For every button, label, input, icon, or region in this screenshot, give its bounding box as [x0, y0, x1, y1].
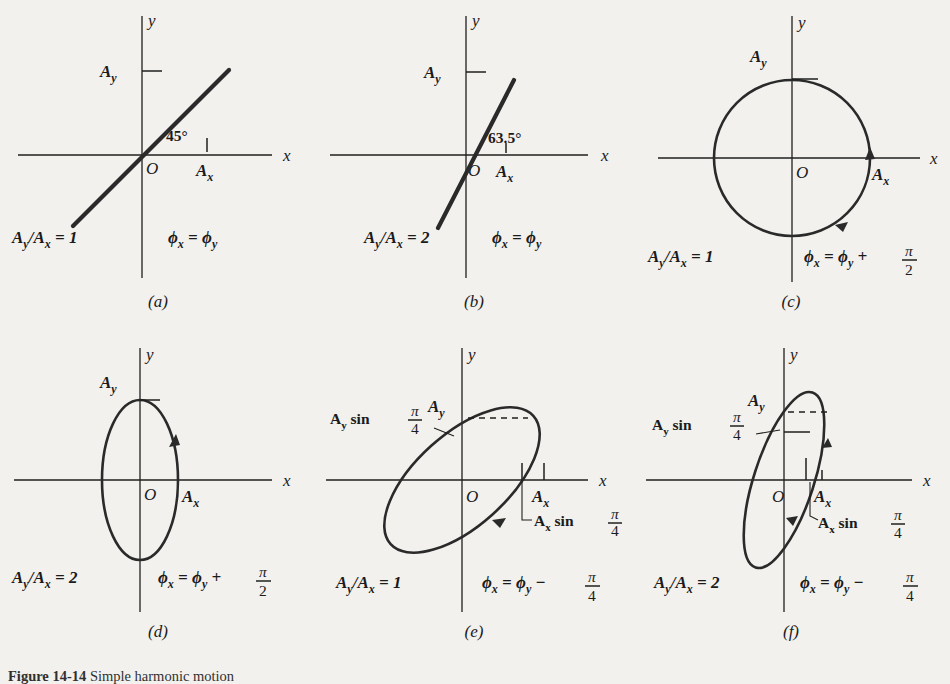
annotation-leader-y: [756, 430, 780, 434]
origin-label: O: [772, 487, 784, 506]
phase-label: ϕx = ϕy −: [482, 573, 546, 596]
amp-x-label: Ax: [813, 487, 831, 510]
panel-f: x y O Ay Ax Ay sin π 4: [632, 330, 950, 648]
fraction-numerator: π: [906, 568, 915, 585]
x-axis-label: x: [600, 146, 609, 165]
annotation-y-frac-num: π: [411, 402, 420, 419]
panel-letter-a: (a): [0, 292, 316, 312]
ratio-label: Ay/Ax = 2: [11, 568, 78, 591]
amp-y-label: Ay: [423, 63, 441, 86]
ratio-label: Ay/Ax = 1: [335, 573, 401, 596]
phase-fraction: π 4: [585, 568, 600, 604]
fraction-denominator: 4: [906, 587, 914, 604]
figure-caption: Figure 14-14 Simple harmonic motion: [8, 668, 942, 684]
ratio-label: Ay/Ax = 1: [647, 247, 713, 270]
panel-letter-f: (f): [632, 622, 950, 642]
panel-letter-e: (e): [316, 622, 632, 642]
amp-y-label: Ay: [99, 62, 117, 85]
annotation-x-text: Ax sin: [818, 514, 858, 535]
origin-label: O: [144, 485, 156, 504]
panel-a: x y O Ay Ax 45° Ay/Ax = 1 ϕx = ϕy (a): [0, 0, 316, 318]
ratio-label: Ay/Ax = 2: [363, 228, 430, 251]
panel-b: x y O Ay Ax 63.5° Ay/Ax = 2 ϕx = ϕy (b): [316, 0, 632, 318]
panel-letter-c: (c): [632, 292, 950, 312]
figure-caption-text: Simple harmonic motion: [90, 668, 234, 684]
y-axis-label: y: [146, 11, 156, 30]
direction-arrow-bottom: [835, 222, 848, 232]
panel-e-plot: x y O Ay Ax Ay sin π 4 Ax sin: [316, 330, 632, 648]
amp-x-label: Ax: [195, 161, 213, 184]
x-axis-label: x: [929, 149, 938, 168]
phase-fraction: π 2: [902, 242, 917, 278]
panel-a-plot: x y O Ay Ax 45° Ay/Ax = 1 ϕx = ϕy: [0, 0, 316, 318]
annotation-amp-y-sin: Ay sin π 4: [652, 408, 744, 443]
x-axis-label: x: [282, 146, 291, 165]
ratio-label: Ay/Ax = 2: [653, 573, 720, 596]
annotation-x-text: Ax sin: [534, 512, 574, 533]
annotation-x-frac-num: π: [894, 506, 903, 523]
direction-arrow-right: [865, 147, 875, 160]
phase-fraction: π 2: [256, 563, 271, 599]
panel-d-plot: x y O Ay Ax Ay/Ax = 2 ϕx = ϕy + π 2: [0, 330, 316, 648]
phase-label: ϕx = ϕy −: [800, 573, 864, 596]
x-axis-label: x: [282, 471, 291, 490]
phase-label: ϕx = ϕy +: [158, 568, 221, 591]
amp-y-label: Ay: [427, 397, 445, 420]
amp-x-label: Ax: [495, 162, 513, 185]
amp-x-label: Ax: [871, 165, 889, 188]
x-axis-label: x: [598, 471, 607, 490]
annotation-y-frac-den: 4: [733, 426, 741, 443]
fraction-numerator: π: [588, 568, 597, 585]
y-axis-label: y: [470, 11, 480, 30]
y-axis-label: y: [466, 345, 476, 364]
panel-d: x y O Ay Ax Ay/Ax = 2 ϕx = ϕy + π 2 (d): [0, 330, 316, 648]
annotation-y-text: Ay sin: [652, 416, 692, 437]
origin-label: O: [796, 163, 808, 182]
figure-caption-label: Figure 14-14: [8, 668, 86, 684]
fraction-numerator: π: [905, 242, 914, 259]
annotation-leader-x: [522, 480, 532, 520]
annotation-y-frac-den: 4: [411, 420, 419, 437]
y-axis-label: y: [796, 13, 806, 32]
annotation-y-text: Ay sin: [330, 410, 370, 431]
annotation-amp-x-sin: Ax sin π 4: [818, 506, 905, 541]
phase-label: ϕx = ϕy: [168, 228, 218, 251]
x-axis-label: x: [922, 471, 931, 490]
y-axis-label: y: [788, 345, 798, 364]
angle-label: 63.5°: [488, 129, 521, 146]
annotation-x-frac-den: 4: [611, 522, 619, 539]
panel-letter-b: (b): [316, 292, 632, 312]
panel-letter-d: (d): [0, 622, 316, 642]
annotation-x-frac-den: 4: [894, 524, 902, 541]
panel-c: x y O Ay Ax Ay/Ax = 1 ϕx = ϕy + π 2 (c): [632, 0, 950, 318]
angle-label: 45°: [166, 127, 188, 144]
amp-y-label: Ay: [99, 373, 117, 396]
annotation-amp-x-sin: Ax sin π 4: [534, 505, 622, 539]
annotation-x-frac-num: π: [611, 505, 620, 522]
panel-b-plot: x y O Ay Ax 63.5° Ay/Ax = 2 ϕx = ϕy: [316, 0, 632, 318]
phase-fraction: π 4: [903, 568, 918, 604]
amp-x-label: Ax: [181, 487, 199, 510]
amp-y-label: Ay: [749, 47, 767, 70]
origin-label: O: [466, 487, 478, 506]
annotation-y-frac-num: π: [733, 408, 742, 425]
motion-line: [438, 80, 514, 228]
panel-f-plot: x y O Ay Ax Ay sin π 4: [632, 330, 950, 648]
annotation-amp-y-sin: Ay sin π 4: [330, 402, 422, 437]
panel-e: x y O Ay Ax Ay sin π 4 Ax sin: [316, 330, 632, 648]
direction-arrow: [492, 518, 506, 528]
fraction-denominator: 2: [259, 582, 267, 599]
amp-y-label: Ay: [747, 391, 765, 414]
phase-label: ϕx = ϕy: [492, 228, 542, 251]
fraction-numerator: π: [259, 563, 268, 580]
phase-label: ϕx = ϕy +: [804, 247, 867, 270]
panel-c-plot: x y O Ay Ax Ay/Ax = 1 ϕx = ϕy + π 2: [632, 0, 950, 318]
direction-arrow-lower: [786, 516, 798, 526]
origin-label: O: [146, 159, 158, 178]
fraction-denominator: 4: [588, 587, 596, 604]
fraction-denominator: 2: [905, 261, 913, 278]
motion-line: [73, 70, 229, 226]
amp-x-label: Ax: [531, 487, 549, 510]
ratio-label: Ay/Ax = 1: [11, 228, 77, 251]
